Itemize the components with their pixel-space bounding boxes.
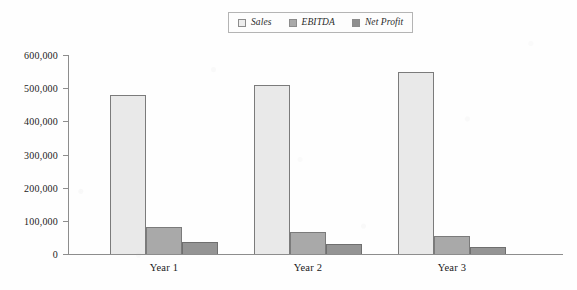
y-axis-tick-label: 400,000 <box>24 116 58 127</box>
legend-item-sales: Sales <box>238 18 272 28</box>
plot-area: 0100,000200,000300,000400,000500,000600,… <box>68 55 563 255</box>
legend-item-ebitda: EBITDA <box>289 18 335 28</box>
y-axis-tick-label: 200,000 <box>24 182 58 193</box>
x-axis-line <box>68 254 563 255</box>
bar-chart: Sales EBITDA Net Profit 0100,000200,0003… <box>0 0 577 290</box>
bar-ebitda <box>146 227 182 254</box>
legend-item-net-profit: Net Profit <box>352 18 403 28</box>
bar-group <box>254 85 362 254</box>
y-axis-tick: 400,000 <box>63 121 68 122</box>
y-axis-tick-label: 600,000 <box>24 50 58 61</box>
y-axis-tick: 300,000 <box>63 155 68 156</box>
legend-swatch-sales <box>238 19 246 27</box>
legend-swatch-net-profit <box>352 19 360 27</box>
y-axis-tick: 500,000 <box>63 88 68 89</box>
bar-sales <box>110 95 146 254</box>
y-axis-tick: 0 <box>63 254 68 255</box>
bar-sales <box>398 72 434 254</box>
bar-group <box>110 95 218 254</box>
x-axis-label: Year 1 <box>150 262 178 273</box>
y-axis-tick: 600,000 <box>63 55 68 56</box>
y-axis-tick-label: 0 <box>53 249 58 260</box>
legend-label-sales: Sales <box>251 18 272 28</box>
y-axis-line <box>68 55 69 255</box>
x-axis-label: Year 3 <box>438 262 466 273</box>
bar-sales <box>254 85 290 254</box>
y-axis-tick: 200,000 <box>63 188 68 189</box>
bar-ebitda <box>290 232 326 254</box>
bar-group <box>398 72 506 254</box>
bar-net-profit <box>470 247 506 254</box>
x-axis-label: Year 2 <box>294 262 322 273</box>
y-axis-tick-label: 100,000 <box>24 215 58 226</box>
bar-ebitda <box>434 236 470 254</box>
legend-label-ebitda: EBITDA <box>302 18 335 28</box>
y-axis-tick-label: 300,000 <box>24 149 58 160</box>
bar-net-profit <box>182 242 218 254</box>
chart-legend: Sales EBITDA Net Profit <box>228 12 413 33</box>
bar-net-profit <box>326 244 362 254</box>
y-axis-tick: 100,000 <box>63 221 68 222</box>
y-axis-tick-label: 500,000 <box>24 83 58 94</box>
legend-swatch-ebitda <box>289 19 297 27</box>
legend-label-net-profit: Net Profit <box>365 18 403 28</box>
